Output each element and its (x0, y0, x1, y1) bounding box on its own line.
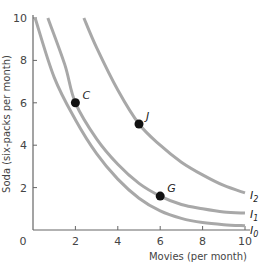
y-tick-label: 4 (20, 139, 27, 152)
y-tick-label: 2 (20, 182, 27, 195)
point-label: G (167, 182, 176, 195)
x-tick-label: 0 (20, 235, 27, 248)
y-tick-label: 6 (20, 97, 27, 110)
labels: I2I1I0 (250, 189, 258, 239)
curve-label-i0: I0 (250, 224, 258, 239)
x-axis-label: Movies (per month) (149, 251, 247, 262)
indifference-chart: 0246810246810Movies (per month)Soda (six… (0, 0, 267, 265)
y-axis-label: Soda (six-packs per month) (1, 55, 12, 193)
x-tick-label: 10 (238, 235, 252, 248)
point-g (156, 192, 165, 201)
point-c (71, 98, 80, 107)
x-tick-label: 4 (114, 235, 121, 248)
curve-label-i1: I1 (250, 208, 258, 223)
curve-label-i2: I2 (250, 189, 258, 204)
point-j (135, 120, 144, 129)
point-label: C (82, 89, 90, 102)
y-tick-label: 10 (13, 12, 27, 25)
x-tick-label: 8 (199, 235, 206, 248)
y-tick-label: 8 (20, 54, 27, 67)
point-label: J (144, 110, 149, 123)
x-tick-label: 2 (72, 235, 79, 248)
x-tick-label: 6 (157, 235, 164, 248)
